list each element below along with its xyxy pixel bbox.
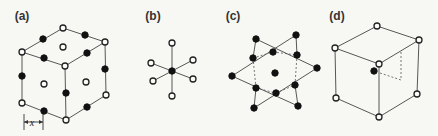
- filled-atom-icon: [270, 49, 276, 55]
- open-atom-icon: [19, 49, 25, 55]
- open-atom-icon: [60, 44, 66, 50]
- open-atom-icon: [60, 25, 66, 31]
- filled-atom-icon: [253, 85, 259, 91]
- filled-atom-icon: [251, 105, 257, 111]
- filled-atom-icon: [84, 50, 90, 56]
- filled-atom-icon: [314, 65, 320, 71]
- filled-atom-icon: [253, 36, 259, 42]
- open-atom-icon: [41, 81, 47, 87]
- open-atom-icon: [102, 39, 108, 45]
- hidden-bond-line: [380, 73, 401, 80]
- filled-atom-icon: [272, 70, 278, 76]
- open-atom-icon: [150, 78, 156, 84]
- filled-atom-icon: [169, 68, 175, 74]
- filled-atom-icon: [295, 103, 301, 109]
- panel-c-hexagram: [229, 32, 320, 111]
- open-atom-icon: [374, 23, 380, 29]
- open-atom-icon: [376, 114, 382, 120]
- filled-atom-icon: [41, 55, 47, 61]
- filled-atom-icon: [229, 73, 235, 79]
- open-atom-icon: [190, 57, 196, 63]
- filled-atom-icon: [82, 32, 88, 38]
- open-atom-icon: [103, 92, 109, 98]
- open-atom-icon: [62, 63, 68, 69]
- bond-line: [335, 26, 377, 48]
- open-atom-icon: [190, 76, 196, 82]
- filled-atom-icon: [102, 66, 108, 72]
- bond-line: [377, 26, 419, 40]
- hidden-bond-line: [253, 58, 256, 88]
- filled-atom-icon: [292, 82, 298, 88]
- filled-atom-icon: [250, 55, 256, 61]
- arrowhead-left-icon: [24, 120, 28, 124]
- bond-line: [254, 68, 317, 108]
- panel-d-cube-interstitial: [332, 23, 422, 120]
- filled-atom-icon: [41, 108, 47, 114]
- filled-atom-icon: [63, 90, 69, 96]
- bond-line: [335, 48, 336, 98]
- bond-line: [379, 94, 417, 117]
- bond-line: [336, 98, 379, 117]
- bond-line: [417, 40, 419, 94]
- bond-line: [335, 48, 379, 64]
- open-atom-icon: [148, 60, 154, 66]
- arrowhead-right-icon: [39, 120, 43, 124]
- open-atom-icon: [416, 37, 422, 43]
- measure-label: x: [29, 117, 35, 128]
- open-atom-icon: [169, 93, 175, 99]
- filled-atom-icon: [19, 73, 25, 79]
- open-atom-icon: [332, 45, 338, 51]
- filled-atom-icon: [293, 32, 299, 38]
- bond-line: [232, 35, 296, 76]
- filled-atom-icon: [273, 90, 279, 96]
- bond-line: [379, 40, 419, 64]
- open-atom-icon: [376, 61, 382, 67]
- filled-atom-icon: [40, 36, 46, 42]
- filled-atom-icon: [294, 52, 300, 58]
- open-atom-icon: [169, 40, 175, 46]
- open-atom-icon: [19, 100, 25, 106]
- filled-atom-icon: [84, 104, 90, 110]
- diagram-canvas: x: [0, 0, 438, 136]
- open-atom-icon: [333, 95, 339, 101]
- panel-a-cube: x: [19, 25, 109, 130]
- open-atom-icon: [63, 117, 69, 123]
- filled-atom-icon: [371, 68, 377, 74]
- open-atom-icon: [83, 79, 89, 85]
- open-atom-icon: [414, 91, 420, 97]
- crystal-structure-figure: (a) (b) (c) (d) x: [0, 0, 438, 136]
- panel-b-octahedral: [148, 40, 196, 99]
